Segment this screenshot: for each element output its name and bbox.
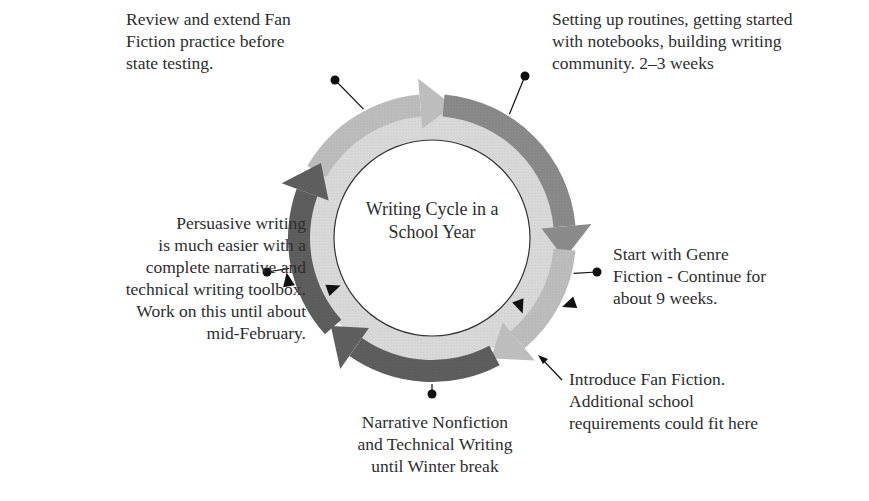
callout-line [335,80,363,109]
callout-line [509,76,525,114]
label-line: Persuasive writing [96,212,306,234]
callout-pin-genre-fiction [574,268,602,277]
center-title-line: School Year [352,221,512,244]
label-line: Review and extend Fan [126,8,291,30]
label-line: Setting up routines, getting started [552,8,793,30]
callout-pin-narrative [428,384,437,399]
center-title-line: Writing Cycle in a [352,198,512,221]
callout-dot [593,268,602,277]
label-line: Start with Genre [613,243,766,265]
label-line: Fiction practice before [126,30,291,52]
stage-label-narrative-nonfiction: Narrative Nonfiction and Technical Writi… [330,411,540,477]
callout-pin-routines [509,72,529,115]
label-line: with notebooks, building writing [552,30,793,52]
callout-dot [428,390,437,399]
label-line: and Technical Writing [330,433,540,455]
callout-line [543,360,562,380]
label-line: about 9 weeks. [613,287,766,309]
stage-label-fan-fiction: Introduce Fan Fiction. Additional school… [569,368,758,434]
center-title: Writing Cycle in a School Year [352,198,512,244]
label-line: community. 2–3 weeks [552,52,793,74]
label-line: Work on this until about [96,300,306,322]
label-line: state testing. [126,52,291,74]
stage-label-persuasive: Persuasive writing is much easier with a… [96,212,306,344]
callout-pin-review [331,76,364,110]
callout-dot [331,76,340,85]
stage-label-routines: Setting up routines, getting started wit… [552,8,793,74]
callout-arrowhead [538,355,548,364]
label-line: Narrative Nonfiction [330,411,540,433]
label-line: until Winter break [330,455,540,477]
label-line: complete narrative and [96,256,306,278]
label-line: technical writing toolbox. [96,278,306,300]
label-line: Fiction - Continue for [613,265,766,287]
callout-dot [521,72,530,81]
callout-arrow-fan-fiction [538,355,562,380]
stage-label-genre-fiction: Start with Genre Fiction - Continue for … [613,243,766,309]
stage-label-review: Review and extend Fan Fiction practice b… [126,8,291,74]
label-line: Additional school [569,390,758,412]
label-line: mid-February. [96,322,306,344]
marker-triangle [560,297,577,313]
label-line: requirements could fit here [569,412,758,434]
label-line: Introduce Fan Fiction. [569,368,758,390]
label-line: is much easier with a [96,234,306,256]
